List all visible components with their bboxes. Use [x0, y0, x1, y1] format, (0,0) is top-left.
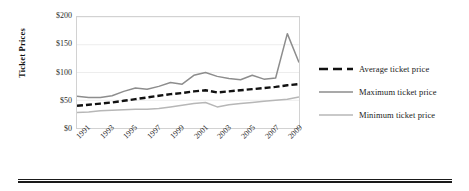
x-axis-tick-labels: 1991199319951997199920012003200520072009	[76, 131, 300, 181]
series-line-minimum-ticket-price	[77, 97, 299, 113]
plot-svg	[77, 17, 299, 128]
divider-line-thick	[18, 181, 452, 183]
legend-label: Minimum ticket price	[359, 110, 435, 120]
bottom-divider-rule	[18, 179, 452, 183]
legend-label: Average ticket price	[359, 64, 429, 74]
legend-item[interactable]: Average ticket price	[319, 57, 467, 80]
y-axis-title: Ticket Prices	[17, 0, 27, 108]
solid-line-marker	[319, 87, 353, 97]
y-tick-label: $150	[30, 40, 72, 48]
plot-area	[76, 16, 300, 129]
y-tick-label: $0	[30, 125, 72, 133]
chart-figure: Ticket Prices $0$50$100$150$200 19911993…	[0, 0, 469, 191]
legend-label: Maximum ticket price	[359, 87, 437, 97]
dashed-line-marker	[319, 64, 353, 74]
solid-line-marker	[319, 110, 353, 120]
series-line-average-ticket-price	[77, 84, 299, 106]
y-tick-label: $200	[30, 12, 72, 20]
legend-item[interactable]: Maximum ticket price	[319, 80, 467, 103]
y-tick-label: $100	[30, 69, 72, 77]
chart-legend: Average ticket priceMaximum ticket price…	[319, 57, 467, 126]
y-axis-tick-labels: $0$50$100$150$200	[30, 0, 72, 191]
divider-line-thin	[18, 179, 452, 180]
legend-item[interactable]: Minimum ticket price	[319, 103, 467, 126]
y-tick-label: $50	[30, 97, 72, 105]
